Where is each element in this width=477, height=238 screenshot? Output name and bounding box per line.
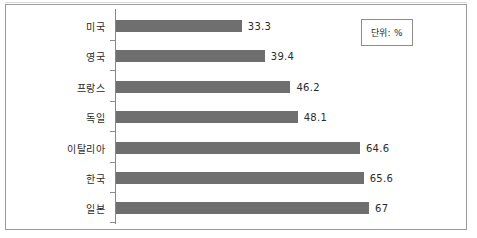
bar bbox=[116, 50, 265, 62]
bar-row: 프랑스46.2 bbox=[6, 72, 468, 102]
axis-tick-mark bbox=[110, 222, 115, 223]
bar-chart-figure: 미국33.3영국39.4프랑스46.2독일48.1이탈리아64.6한국65.6일… bbox=[0, 0, 477, 238]
bar bbox=[116, 142, 360, 154]
top-rule-divider bbox=[5, 2, 467, 3]
unit-legend-box: 단위: % bbox=[361, 19, 413, 46]
bar bbox=[116, 172, 364, 184]
bar-value-label: 33.3 bbox=[248, 21, 271, 32]
bar bbox=[116, 202, 369, 214]
category-label: 프랑스 bbox=[77, 79, 105, 94]
bar-value-label: 67 bbox=[375, 203, 388, 214]
bar-value-label: 46.2 bbox=[296, 81, 319, 92]
bar bbox=[116, 81, 290, 93]
bar bbox=[116, 20, 242, 32]
plot-area: 미국33.3영국39.4프랑스46.2독일48.1이탈리아64.6한국65.6일… bbox=[6, 5, 468, 231]
bar-row: 이탈리아64.6 bbox=[6, 133, 468, 163]
bar-value-label: 65.6 bbox=[370, 173, 393, 184]
category-label: 한국 bbox=[86, 171, 105, 186]
bar-row: 독일48.1 bbox=[6, 102, 468, 132]
bar-value-label: 39.4 bbox=[271, 51, 294, 62]
category-label: 일본 bbox=[86, 201, 105, 216]
category-label: 영국 bbox=[86, 49, 105, 64]
bar-value-label: 48.1 bbox=[304, 112, 327, 123]
bar-row: 한국65.6 bbox=[6, 163, 468, 193]
figure-frame: 미국33.3영국39.4프랑스46.2독일48.1이탈리아64.6한국65.6일… bbox=[5, 4, 467, 230]
category-label: 이탈리아 bbox=[67, 140, 105, 155]
category-label: 독일 bbox=[86, 110, 105, 125]
bar bbox=[116, 111, 298, 123]
bar-row: 일본67 bbox=[6, 193, 468, 223]
category-label: 미국 bbox=[86, 19, 105, 34]
unit-legend-label: 단위: % bbox=[371, 26, 403, 39]
bar-value-label: 64.6 bbox=[366, 142, 389, 153]
